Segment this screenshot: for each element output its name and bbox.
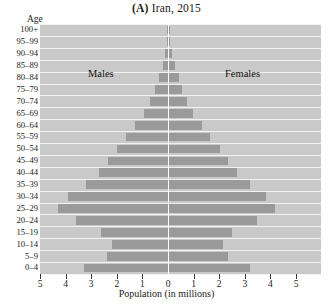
bar-female xyxy=(169,133,210,142)
y-axis-tick-label: 25–29 xyxy=(0,204,38,213)
population-pyramid-chart: (A) Iran, 2015 Age 0–45–910–1415–1920–24… xyxy=(0,0,333,304)
bar-male xyxy=(126,133,168,142)
gridline xyxy=(40,60,321,61)
bar-female xyxy=(169,252,228,261)
bar-female xyxy=(169,49,172,58)
bar-female xyxy=(169,73,179,82)
bar-male xyxy=(84,264,168,273)
bar-male xyxy=(58,204,168,213)
y-axis-tick-label: 70–74 xyxy=(0,97,38,106)
bar-male xyxy=(86,180,168,189)
bar-female xyxy=(169,157,228,166)
gridline xyxy=(40,72,321,73)
chart-title-tag: (A) xyxy=(132,2,149,14)
bar-male xyxy=(108,157,168,166)
y-axis-tick-label: 95–99 xyxy=(0,37,38,46)
bar-male xyxy=(99,168,168,177)
y-axis-tick-label: 35–39 xyxy=(0,180,38,189)
bar-female xyxy=(169,26,170,35)
bar-female xyxy=(169,228,232,237)
y-axis-tick-label: 45–49 xyxy=(0,156,38,165)
y-axis-tick-label: 65–69 xyxy=(0,109,38,118)
y-axis-tick-label: 55–59 xyxy=(0,132,38,141)
bar-female xyxy=(169,37,170,46)
bar-male xyxy=(159,73,168,82)
gridline xyxy=(40,24,321,25)
chart-title-text: Iran, 2015 xyxy=(149,2,201,14)
plot-area xyxy=(40,24,321,274)
y-axis-tick-label: 60–64 xyxy=(0,121,38,130)
bar-male xyxy=(101,228,168,237)
y-axis-tick-label: 20–24 xyxy=(0,216,38,225)
y-axis-tick-labels: 0–45–910–1415–1920–2425–2930–3435–3940–4… xyxy=(0,24,38,274)
bar-female xyxy=(169,97,187,106)
bar-female xyxy=(169,180,250,189)
gridline xyxy=(40,36,321,37)
bar-male xyxy=(76,216,168,225)
bar-male xyxy=(144,109,168,118)
bar-female xyxy=(169,109,193,118)
y-axis-title: Age xyxy=(27,14,43,24)
y-axis-tick-label: 5–9 xyxy=(0,252,38,261)
series-label-males: Males xyxy=(88,68,114,79)
center-axis-line xyxy=(168,24,169,274)
y-axis-tick-label: 85–89 xyxy=(0,61,38,70)
gridline xyxy=(40,48,321,49)
bar-male xyxy=(68,192,168,201)
x-axis: 54321012345 xyxy=(40,274,321,284)
y-axis-tick-label: 75–79 xyxy=(0,85,38,94)
bar-female xyxy=(169,61,175,70)
bar-female xyxy=(169,85,182,94)
y-axis-tick-label: 80–84 xyxy=(0,73,38,82)
x-axis-title: Population (in millions) xyxy=(0,288,333,299)
bar-female xyxy=(169,240,223,249)
y-axis-tick-label: 40–44 xyxy=(0,168,38,177)
bar-male xyxy=(135,121,168,130)
bar-male xyxy=(150,97,168,106)
bar-female xyxy=(169,145,220,154)
bar-female xyxy=(169,204,275,213)
bar-female xyxy=(169,264,250,273)
bar-male xyxy=(112,240,168,249)
bar-male xyxy=(117,145,168,154)
bar-female xyxy=(169,216,257,225)
series-label-females: Females xyxy=(225,68,260,79)
bar-female xyxy=(169,121,202,130)
y-axis-tick-label: 30–34 xyxy=(0,192,38,201)
y-axis-tick-label: 50–54 xyxy=(0,144,38,153)
y-axis-tick-label: 90–94 xyxy=(0,49,38,58)
bar-male xyxy=(155,85,168,94)
y-axis-tick-label: 15–19 xyxy=(0,228,38,237)
bar-female xyxy=(169,192,266,201)
y-axis-tick-label: 100+ xyxy=(0,25,38,34)
bar-male xyxy=(107,252,168,261)
y-axis-tick-label: 0–4 xyxy=(0,263,38,272)
bar-female xyxy=(169,168,237,177)
chart-title: (A) Iran, 2015 xyxy=(0,2,333,14)
y-axis-tick-label: 10–14 xyxy=(0,240,38,249)
